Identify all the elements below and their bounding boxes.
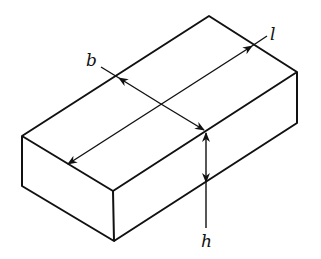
breadth-dimension (101, 67, 204, 130)
height-label: h (201, 231, 212, 251)
block-diagram: l b h (0, 0, 321, 259)
length-label: l (270, 24, 275, 44)
length-dimension (68, 36, 267, 164)
breadth-label: b (86, 50, 97, 70)
cuboid-outline (22, 16, 297, 241)
front-left-face (22, 136, 114, 241)
